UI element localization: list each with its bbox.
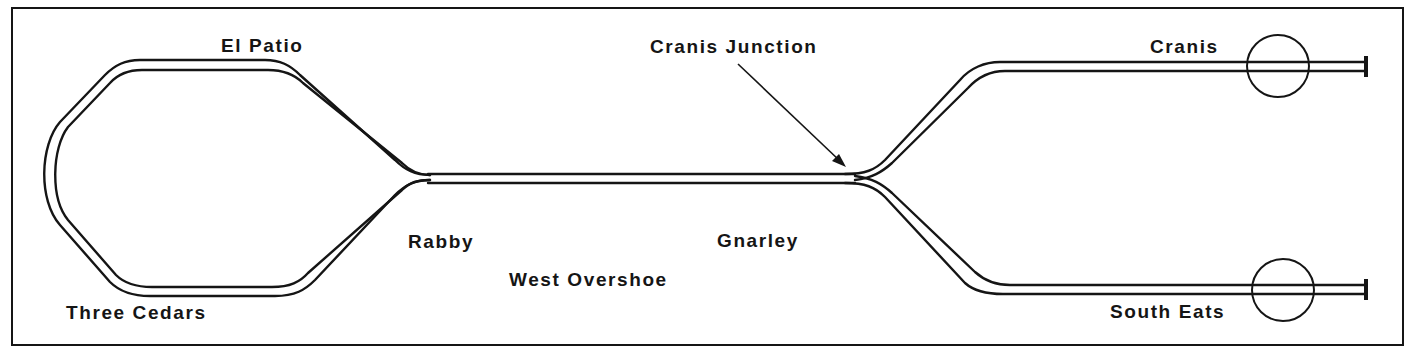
station-label-three-cedars: Three Cedars	[66, 303, 207, 322]
cranis-branch-outer-rail	[845, 62, 1365, 174]
station-label-rabby: Rabby	[408, 232, 474, 251]
station-label-south-eats: South Eats	[1110, 302, 1225, 321]
cranis-branch-inner-rail	[855, 71, 1365, 180]
station-label-cranis: Cranis	[1150, 37, 1219, 56]
station-label-west-overshoe: West Overshoe	[509, 270, 668, 289]
south-eats-branch-outer-rail	[845, 183, 1365, 294]
station-label-gnarley: Gnarley	[717, 231, 799, 250]
station-label-cranis-junction: Cranis Junction	[650, 37, 818, 56]
south-eats-station-marker	[1252, 259, 1314, 321]
loop-inner-rail	[55, 70, 430, 287]
south-eats-branch-inner-rail	[855, 176, 1365, 285]
station-label-el-patio: El Patio	[221, 36, 303, 55]
cranis-station-marker	[1247, 35, 1309, 97]
cranis-junction-arrow	[738, 64, 840, 161]
